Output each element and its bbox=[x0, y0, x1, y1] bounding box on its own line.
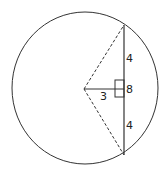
label-half-chord-top: 4 bbox=[126, 52, 133, 65]
label-half-chord-bottom: 4 bbox=[126, 119, 133, 132]
circle-chord-diagram: 4 8 3 4 bbox=[0, 0, 166, 176]
dashed-radius-top bbox=[84, 25, 124, 89]
label-chord-length: 8 bbox=[126, 83, 133, 96]
label-distance: 3 bbox=[100, 90, 107, 103]
